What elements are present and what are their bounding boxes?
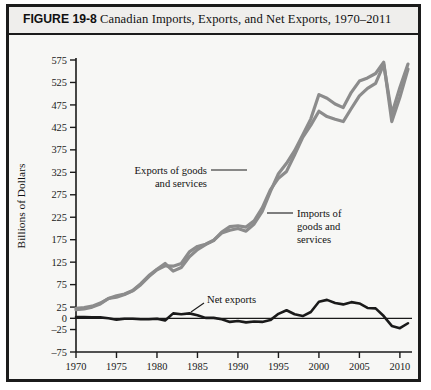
y-axis-tick-label: 425 [51,122,67,133]
imports-annotation-line1: Imports of [297,208,342,219]
y-axis-tick-label: –75 [50,347,67,358]
figure-frame: FIGURE 19-8 Canadian Imports, Exports, a… [6,4,421,382]
x-axis-tick-label: 1995 [268,361,289,372]
exports-annotation-line2: and services [155,178,207,189]
line-chart: –75–250257512517522527532537542547552557… [9,35,418,382]
chart-plot-area: –75–250257512517522527532537542547552557… [9,35,418,382]
net-exports-leader-line [191,303,204,312]
x-axis-tick-label: 1970 [66,361,87,372]
x-axis-tick-label: 1975 [106,361,127,372]
y-axis-tick-label: 275 [51,189,67,200]
x-axis-tick-label: 2000 [309,361,330,372]
y-axis-tick-label: 325 [51,167,67,178]
net-exports-annotation: Net exports [207,294,256,305]
y-axis-tick-label: 75 [57,279,67,290]
x-axis-tick-label: 2010 [390,361,411,372]
y-axis-tick-label: 0 [62,313,67,324]
x-axis-tick-label: 2005 [349,361,370,372]
figure-title: Canadian Imports, Exports, and Net Expor… [100,12,391,26]
y-axis-tick-label: 125 [51,257,67,268]
figure-header: FIGURE 19-8 Canadian Imports, Exports, a… [9,7,418,35]
exports-annotation-line1: Exports of goods [135,165,207,176]
y-axis-tick-label: 175 [51,234,67,245]
imports-annotation-line2: goods and [297,221,341,232]
y-axis-tick-label: 25 [57,302,67,313]
y-axis-tick-label: 575 [51,55,67,66]
y-axis-title: Billions of Dollars [15,163,27,248]
series-line-2 [76,64,408,310]
y-axis-tick-label: 525 [51,77,67,88]
x-axis-tick-label: 1980 [147,361,168,372]
x-axis-tick-label: 1985 [187,361,208,372]
y-axis-tick-label: 225 [51,212,67,223]
y-axis-tick-label: 375 [51,144,67,155]
y-axis-tick-label: –25 [50,324,67,335]
y-axis-tick-label: 475 [51,100,67,111]
figure-caption: FIGURE 19-8 Canadian Imports, Exports, a… [23,12,391,27]
imports-annotation-line3: services [297,234,331,245]
x-axis-tick-label: 1990 [228,361,249,372]
figure-number: FIGURE 19-8 [23,12,97,26]
